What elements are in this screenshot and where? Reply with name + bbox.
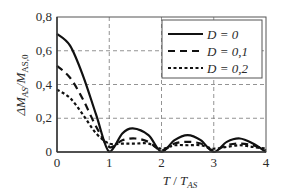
y-tick-label: 0 (46, 144, 53, 159)
y-tick-label: 0,6 (36, 43, 53, 58)
y-tick-label: 0,8 (36, 9, 52, 24)
y-tick-label: 0,2 (36, 110, 52, 125)
y-axis-label: ΔMAS/MAS,0 (13, 54, 30, 117)
x-axis-label: T / TAS (163, 173, 198, 190)
legend-label: D = 0,2 (206, 61, 248, 76)
x-tick-label: 0 (54, 155, 61, 170)
legend-label: D = 0,1 (206, 44, 248, 59)
legend: D = 0 D = 0,1 D = 0,2 (162, 20, 262, 78)
x-tick-label: 4 (263, 155, 270, 170)
line-chart: 01234 00,20,40,60,8 T / TAS ΔMAS/MAS,0 D… (0, 0, 282, 194)
x-tick-label: 1 (106, 155, 113, 170)
x-tick-labels: 01234 (54, 155, 270, 170)
legend-label: D = 0 (206, 27, 239, 42)
x-tick-label: 2 (158, 155, 165, 170)
y-tick-label: 0,4 (36, 77, 53, 92)
x-tick-label: 3 (211, 155, 218, 170)
y-tick-labels: 00,20,40,60,8 (36, 9, 53, 159)
